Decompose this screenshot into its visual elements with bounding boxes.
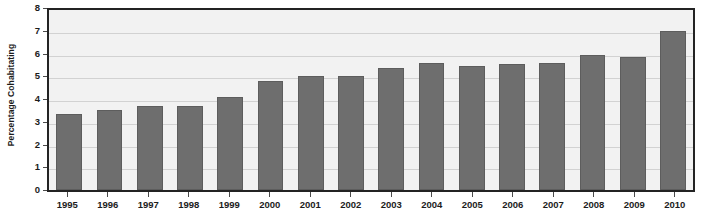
x-axis-tick-mark: [634, 192, 635, 197]
x-axis-tick-mark: [350, 192, 351, 197]
x-axis-tick-mark: [391, 192, 392, 197]
x-axis-labels: 1995199619971998199920002001200220032004…: [47, 198, 695, 214]
x-axis-tick-mark: [674, 192, 675, 197]
x-axis-tick: [452, 192, 493, 197]
x-axis-tick-label: 1997: [128, 198, 169, 214]
bar[interactable]: [459, 66, 485, 190]
x-axis-tick: [614, 192, 655, 197]
x-axis-tick-mark: [188, 192, 189, 197]
bar[interactable]: [298, 76, 324, 190]
x-axis-tick-mark: [553, 192, 554, 197]
y-axis-tick-label: 7: [35, 25, 40, 36]
y-axis-title-label: Percentage Cohabitating: [6, 44, 16, 146]
x-axis-tick-label: 2009: [614, 198, 655, 214]
bar-slot: [291, 10, 331, 190]
bar-slot: [49, 10, 89, 190]
y-axis-tick-label: 3: [35, 116, 40, 127]
x-axis-tick-mark: [472, 192, 473, 197]
x-axis-tick: [533, 192, 574, 197]
x-axis-tick: [371, 192, 412, 197]
x-axis-tick-label: 2005: [452, 198, 493, 214]
y-axis-tick-label: 0: [35, 184, 40, 195]
bar[interactable]: [258, 81, 284, 190]
x-axis-tick: [493, 192, 534, 197]
y-axis-tick-label: 2: [35, 139, 40, 150]
bar-slot: [613, 10, 653, 190]
x-axis-tick-label: 2004: [412, 198, 453, 214]
bar-slot: [492, 10, 532, 190]
x-axis-tick-label: 2002: [331, 198, 372, 214]
bar-slot: [89, 10, 129, 190]
x-axis-tick-label: 2003: [371, 198, 412, 214]
x-axis-tick-mark: [148, 192, 149, 197]
bar[interactable]: [177, 106, 203, 190]
x-axis-tick-mark: [593, 192, 594, 197]
x-axis-tick-mark: [229, 192, 230, 197]
bar-slot: [411, 10, 451, 190]
y-axis-tick-label: 6: [35, 48, 40, 59]
x-axis-tick: [209, 192, 250, 197]
bar[interactable]: [539, 63, 565, 190]
x-axis-tick: [655, 192, 696, 197]
y-axis: 012345678: [20, 8, 48, 190]
x-axis-tick-label: 2007: [533, 198, 574, 214]
plot-area: [47, 8, 695, 190]
x-axis-tick-label: 1995: [47, 198, 88, 214]
x-axis-tick: [88, 192, 129, 197]
y-axis-tick-label: 1: [35, 161, 40, 172]
x-axis-tick-mark: [512, 192, 513, 197]
bar-slot: [331, 10, 371, 190]
x-axis-tick-label: 2000: [250, 198, 291, 214]
bar[interactable]: [338, 76, 364, 190]
x-axis-tick-mark: [67, 192, 68, 197]
bar[interactable]: [499, 64, 525, 190]
bar-slot: [572, 10, 612, 190]
bar-slot: [130, 10, 170, 190]
bar[interactable]: [419, 63, 445, 190]
x-axis-tick-label: 2001: [290, 198, 331, 214]
y-axis-title: Percentage Cohabitating: [2, 0, 20, 190]
x-axis-tick-mark: [310, 192, 311, 197]
bar[interactable]: [137, 106, 163, 190]
bar-slot: [210, 10, 250, 190]
x-axis-tick-label: 1998: [169, 198, 210, 214]
x-axis-tick: [169, 192, 210, 197]
bars-layer: [49, 10, 693, 190]
y-axis-tick-label: 8: [35, 2, 40, 13]
x-axis-ticks: [47, 192, 695, 197]
x-axis-tick-label: 1996: [88, 198, 129, 214]
bar-slot: [371, 10, 411, 190]
x-axis-tick-mark: [107, 192, 108, 197]
x-axis-tick-label: 1999: [209, 198, 250, 214]
bar-slot: [452, 10, 492, 190]
bar-slot: [653, 10, 693, 190]
x-axis-tick: [412, 192, 453, 197]
y-axis-tick-label: 4: [35, 93, 40, 104]
y-axis-tick-label: 5: [35, 70, 40, 81]
bar[interactable]: [378, 68, 404, 190]
x-axis-tick: [574, 192, 615, 197]
x-axis-tick-label: 2008: [574, 198, 615, 214]
bar[interactable]: [217, 97, 243, 190]
bar[interactable]: [620, 57, 646, 190]
x-axis-tick: [47, 192, 88, 197]
x-axis-tick-label: 2010: [655, 198, 696, 214]
bar-slot: [170, 10, 210, 190]
bar[interactable]: [580, 55, 606, 190]
x-axis-tick-mark: [431, 192, 432, 197]
x-axis-tick-mark: [269, 192, 270, 197]
bar-slot: [250, 10, 290, 190]
bar[interactable]: [660, 31, 686, 190]
x-axis-tick: [250, 192, 291, 197]
bar-chart: Percentage Cohabitating 012345678 199519…: [0, 0, 703, 221]
bar-slot: [532, 10, 572, 190]
x-axis-tick: [331, 192, 372, 197]
bar[interactable]: [56, 114, 82, 190]
x-axis-tick: [290, 192, 331, 197]
x-axis-tick: [128, 192, 169, 197]
bar[interactable]: [97, 110, 123, 190]
x-axis-tick-label: 2006: [493, 198, 534, 214]
